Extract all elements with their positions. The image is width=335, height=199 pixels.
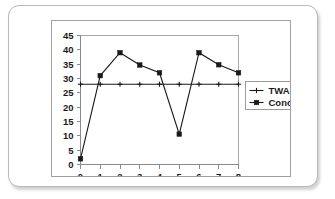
x-axis-ticks — [81, 165, 239, 169]
y-axis-tick-labels: 051015202530354045 — [63, 30, 74, 170]
x-tick-label: 0 — [78, 171, 83, 177]
y-tick-label: 35 — [63, 59, 74, 70]
series-line-concentration — [81, 53, 239, 159]
plot-area-border — [81, 36, 239, 165]
y-tick-label: 5 — [68, 145, 74, 156]
data-point-concentration — [177, 132, 182, 137]
screenshot-root: 051015202530354045 012345678 TWAConcentr… — [0, 0, 335, 199]
chart-legend[interactable]: TWAConcentration — [246, 82, 291, 110]
y-tick-label: 15 — [63, 116, 74, 127]
y-tick-label: 30 — [63, 73, 74, 84]
data-point-concentration — [236, 70, 241, 75]
x-tick-label: 5 — [177, 171, 183, 177]
x-axis-tick-labels: 012345678 — [78, 171, 241, 177]
y-tick-label: 20 — [63, 102, 74, 113]
x-tick-label: 3 — [137, 171, 142, 177]
data-point-concentration — [118, 50, 123, 55]
data-point-concentration — [157, 70, 162, 75]
x-tick-label: 1 — [98, 171, 104, 177]
data-point-concentration — [137, 63, 142, 68]
y-tick-label: 45 — [63, 30, 74, 41]
data-series-group — [78, 50, 241, 161]
y-tick-label: 0 — [68, 159, 73, 170]
chart-card: 051015202530354045 012345678 TWAConcentr… — [8, 5, 318, 187]
y-tick-label: 40 — [63, 44, 74, 55]
data-point-concentration — [197, 50, 202, 55]
data-point-concentration — [78, 156, 83, 161]
y-tick-label: 25 — [63, 87, 74, 98]
x-tick-label: 6 — [196, 171, 201, 177]
x-tick-label: 4 — [157, 171, 163, 177]
y-tick-label: 10 — [63, 130, 74, 141]
data-point-concentration — [98, 73, 103, 78]
data-point-concentration — [216, 62, 221, 67]
legend-label-concentration: Concentration — [269, 97, 291, 108]
legend-label-twa: TWA — [269, 85, 290, 96]
line-chart: 051015202530354045 012345678 TWAConcentr… — [52, 21, 290, 176]
x-tick-label: 8 — [236, 171, 241, 177]
y-axis-ticks — [77, 36, 81, 165]
x-tick-label: 2 — [117, 171, 122, 177]
x-tick-label: 7 — [216, 171, 221, 177]
legend-marker-concentration — [254, 100, 259, 105]
chart-frame: 051015202530354045 012345678 TWAConcentr… — [51, 20, 291, 177]
